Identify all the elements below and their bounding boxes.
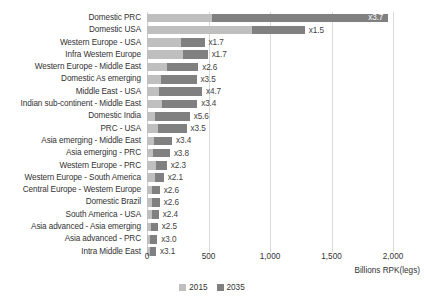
bar-segment-2035[interactable] bbox=[151, 223, 158, 232]
bar-rows: x3.7x1.5x1.7x1.7x2.6x3.5x4.7x3.4x5.6x3.5… bbox=[147, 12, 393, 258]
bar-segment-2035[interactable] bbox=[156, 161, 167, 170]
bar-segment-2035[interactable] bbox=[152, 186, 160, 195]
bar-row[interactable]: x3.4 bbox=[147, 98, 393, 110]
category-label: Domestic PRC bbox=[0, 12, 144, 24]
bar-row[interactable]: x3.7 bbox=[147, 12, 393, 24]
stacked-bar[interactable] bbox=[147, 38, 205, 47]
bar-segment-2035[interactable] bbox=[212, 14, 388, 23]
category-axis-labels: Domestic PRCDomestic USAWestern Europe -… bbox=[0, 12, 144, 258]
stacked-bar[interactable] bbox=[147, 63, 198, 72]
bar-segment-2015[interactable] bbox=[147, 26, 252, 35]
bar-segment-2015[interactable] bbox=[147, 75, 161, 84]
x-tick-label: 1,000 bbox=[260, 252, 281, 261]
bar-row[interactable]: x2.4 bbox=[147, 209, 393, 221]
bar-segment-2035[interactable] bbox=[155, 112, 190, 121]
bar-segment-2015[interactable] bbox=[147, 173, 155, 182]
growth-multiplier-label: x2.6 bbox=[202, 62, 217, 73]
bar-segment-2035[interactable] bbox=[158, 124, 186, 133]
growth-multiplier-label: x3.4 bbox=[201, 98, 216, 109]
stacked-bar[interactable] bbox=[147, 210, 159, 219]
bar-segment-2015[interactable] bbox=[147, 161, 156, 170]
legend-swatch-2015-icon bbox=[179, 284, 186, 291]
bar-segment-2015[interactable] bbox=[147, 112, 155, 121]
stacked-bar[interactable] bbox=[147, 87, 202, 96]
stacked-bar[interactable] bbox=[147, 173, 164, 182]
x-tick-label: 2,000 bbox=[383, 252, 404, 261]
legend-entry-2015: 2015 bbox=[179, 283, 207, 292]
category-label: Infra Western Europe bbox=[0, 49, 144, 61]
stacked-bar[interactable] bbox=[147, 161, 167, 170]
bar-segment-2035[interactable] bbox=[152, 210, 159, 219]
growth-multiplier-label: x5.6 bbox=[194, 111, 209, 122]
bar-row[interactable]: x3.0 bbox=[147, 233, 393, 245]
stacked-bar[interactable] bbox=[147, 75, 197, 84]
category-label: Asia emerging - Middle East bbox=[0, 135, 144, 147]
stacked-bar[interactable] bbox=[147, 235, 157, 244]
category-label: South America - USA bbox=[0, 209, 144, 221]
bar-segment-2035[interactable] bbox=[159, 87, 202, 96]
growth-multiplier-label: x3.0 bbox=[161, 234, 176, 245]
bar-row[interactable]: x3.8 bbox=[147, 147, 393, 159]
legend-entry-2035: 2035 bbox=[217, 283, 245, 292]
bar-segment-2015[interactable] bbox=[147, 14, 212, 23]
bar-row[interactable]: x1.7 bbox=[147, 37, 393, 49]
bar-row[interactable]: x3.4 bbox=[147, 135, 393, 147]
bar-segment-2015[interactable] bbox=[147, 124, 158, 133]
bar-row[interactable]: x2.1 bbox=[147, 172, 393, 184]
bar-segment-2035[interactable] bbox=[167, 63, 198, 72]
x-tick-label: 0 bbox=[145, 252, 150, 261]
bar-row[interactable]: x3.5 bbox=[147, 123, 393, 135]
bar-segment-2035[interactable] bbox=[152, 198, 160, 207]
bar-segment-2035[interactable] bbox=[155, 173, 164, 182]
bar-segment-2015[interactable] bbox=[147, 38, 181, 47]
bar-row[interactable]: x3.5 bbox=[147, 73, 393, 85]
stacked-bar[interactable] bbox=[147, 100, 197, 109]
bar-row[interactable]: x5.6 bbox=[147, 110, 393, 122]
stacked-bar[interactable] bbox=[147, 137, 172, 146]
bar-row[interactable]: x2.6 bbox=[147, 196, 393, 208]
category-label: PRC - USA bbox=[0, 123, 144, 135]
growth-multiplier-label: x3.4 bbox=[176, 135, 191, 146]
bar-segment-2015[interactable] bbox=[147, 100, 162, 109]
bar-row[interactable]: x2.6 bbox=[147, 61, 393, 73]
bar-row[interactable]: x1.5 bbox=[147, 24, 393, 36]
growth-multiplier-label: x3.7 bbox=[368, 12, 383, 23]
growth-multiplier-label: x2.3 bbox=[171, 160, 186, 171]
bar-segment-2035[interactable] bbox=[181, 38, 205, 47]
bar-segment-2015[interactable] bbox=[147, 87, 159, 96]
growth-multiplier-label: x2.5 bbox=[162, 221, 177, 232]
bar-segment-2035[interactable] bbox=[161, 75, 196, 84]
stacked-bar[interactable] bbox=[147, 50, 208, 59]
bar-segment-2035[interactable] bbox=[153, 149, 170, 158]
legend-label-2035: 2035 bbox=[227, 283, 245, 292]
bar-segment-2035[interactable] bbox=[183, 50, 208, 59]
category-label: Western Europe - South America bbox=[0, 172, 144, 184]
category-label: Western Europe - Middle East bbox=[0, 61, 144, 73]
stacked-bar[interactable] bbox=[147, 149, 170, 158]
stacked-bar[interactable] bbox=[147, 198, 160, 207]
stacked-bar[interactable] bbox=[147, 112, 190, 121]
stacked-bar[interactable] bbox=[147, 186, 160, 195]
bar-segment-2015[interactable] bbox=[147, 50, 183, 59]
bar-row[interactable]: x2.5 bbox=[147, 221, 393, 233]
bar-segment-2015[interactable] bbox=[147, 63, 167, 72]
bar-row[interactable]: x4.7 bbox=[147, 86, 393, 98]
category-label: Domestic As emerging bbox=[0, 73, 144, 85]
bar-row[interactable]: x1.7 bbox=[147, 49, 393, 61]
category-label: Domestic India bbox=[0, 110, 144, 122]
bar-segment-2015[interactable] bbox=[147, 137, 154, 146]
bar-row[interactable]: x2.3 bbox=[147, 160, 393, 172]
plot-area: x3.7x1.5x1.7x1.7x2.6x3.5x4.7x3.4x5.6x3.5… bbox=[147, 12, 393, 252]
stacked-bar[interactable] bbox=[147, 14, 388, 23]
bar-segment-2035[interactable] bbox=[154, 137, 172, 146]
growth-multiplier-label: x1.7 bbox=[212, 49, 227, 60]
stacked-bar[interactable] bbox=[147, 124, 187, 133]
category-label: Indian sub-continent - Middle East bbox=[0, 98, 144, 110]
legend-swatch-2035-icon bbox=[217, 284, 224, 291]
bar-segment-2035[interactable] bbox=[252, 26, 305, 35]
bar-row[interactable]: x2.6 bbox=[147, 184, 393, 196]
bar-segment-2035[interactable] bbox=[150, 235, 157, 244]
stacked-bar[interactable] bbox=[147, 223, 158, 232]
stacked-bar[interactable] bbox=[147, 26, 305, 35]
bar-segment-2035[interactable] bbox=[162, 100, 197, 109]
